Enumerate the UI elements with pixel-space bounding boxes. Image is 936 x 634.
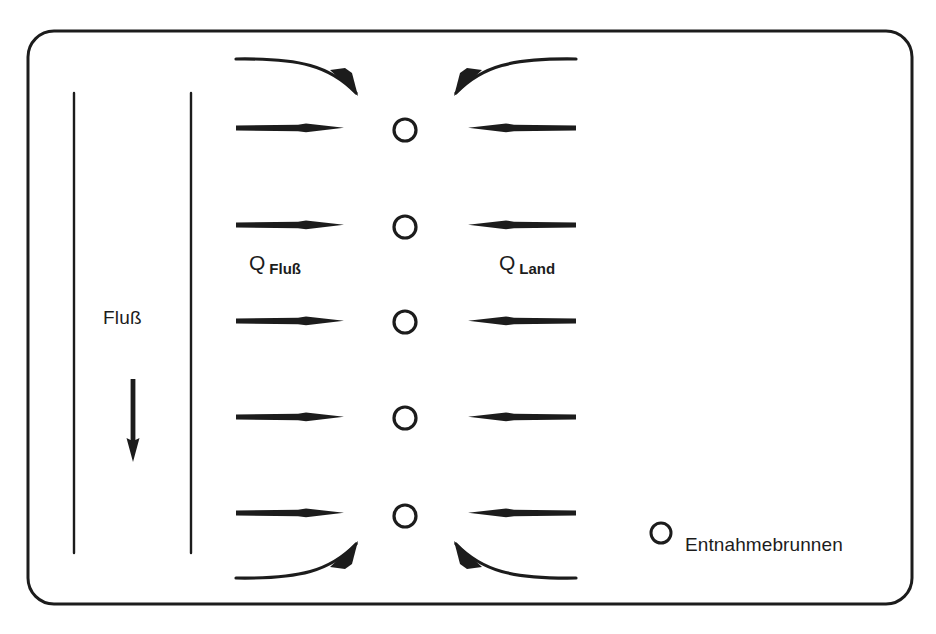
land-side-flow-arrows: [468, 123, 576, 517]
extraction-well-column: [394, 119, 416, 527]
q-land-label: QLand: [499, 252, 555, 273]
top-left-curved-inflow-arrow: [236, 59, 358, 96]
q-river-subscript: Fluß: [269, 260, 301, 277]
q-river-label: QFluß: [249, 252, 301, 273]
bottom-right-curved-inflow-arrow: [454, 541, 576, 578]
top-right-curved-inflow-arrow: [454, 59, 576, 96]
extraction-well: [394, 407, 416, 429]
aquifer-domain-boundary: [28, 31, 912, 604]
q-land-subscript: Land: [519, 260, 555, 277]
river-flow-arrow: [127, 379, 140, 462]
figure-canvas: Fluß QFluß QLand Entnahmebrunnen: [0, 0, 936, 634]
legend-well-symbol-icon: [651, 523, 671, 543]
extraction-well: [394, 119, 416, 141]
q-land-symbol: Q: [499, 251, 515, 274]
q-river-symbol: Q: [249, 251, 265, 274]
bottom-left-curved-inflow-arrow: [236, 541, 358, 578]
extraction-well: [394, 505, 416, 527]
extraction-well: [394, 311, 416, 333]
legend-well-label: Entnahmebrunnen: [685, 535, 843, 554]
river-side-flow-arrows: [236, 123, 344, 517]
river-label: Fluß: [103, 308, 142, 327]
extraction-well: [394, 216, 416, 238]
